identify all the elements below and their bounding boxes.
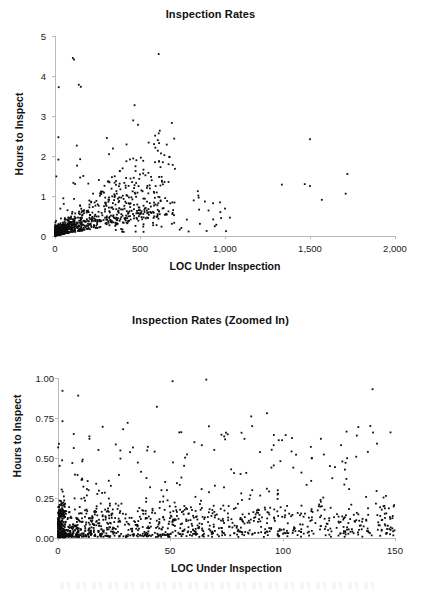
scan-artifact-caption-fragment	[60, 582, 380, 589]
scatter-points-zoomed	[0, 300, 421, 594]
scatter-points-full	[0, 0, 421, 300]
chart-inspection-rates-zoomed: Inspection Rates (Zoomed In) Hours to In…	[0, 300, 421, 594]
chart-inspection-rates-full: Inspection Rates Hours to Inspect 0 1 2 …	[0, 0, 421, 300]
scatter-figure-page: { "page": { "background_color": "#ffffff…	[0, 0, 421, 594]
